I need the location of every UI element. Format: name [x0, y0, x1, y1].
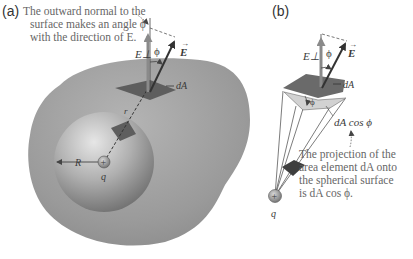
label-phi-b: ϕ — [326, 47, 332, 59]
panel-a-caption-line-2: surface makes an angle ϕ — [30, 18, 146, 31]
panel-b-caption-line-2: area element dA onto — [299, 161, 397, 173]
vector-arrow-e: → — [181, 39, 189, 48]
gauss-law-diagram: + q R r dA E⊥ ϕ E → (a) The outward norm… — [0, 0, 413, 259]
label-e-perp-b: E⊥ — [302, 50, 320, 62]
label-dA-b: dA — [343, 79, 355, 90]
projection-dash-b — [322, 34, 347, 41]
panel-a: + q R r dA E⊥ ϕ E → (a) The outward norm… — [2, 3, 250, 246]
panel-b-caption-line-1: The projection of the — [299, 148, 396, 161]
panel-b: (b) E⊥ ϕ E → dA ϕ — [269, 3, 398, 219]
label-e-perp: E⊥ — [134, 48, 152, 60]
panel-b-caption-line-4: is dA cos ϕ. — [299, 187, 353, 200]
vector-arrow-e-b: → — [349, 40, 357, 49]
label-phi: ϕ — [154, 45, 160, 57]
label-R: R — [74, 157, 81, 168]
label-q-b: q — [271, 208, 276, 219]
label-dA: dA — [176, 80, 188, 91]
projection-dash — [150, 28, 175, 37]
panel-b-caption-line-3: the spherical surface — [299, 174, 394, 187]
label-r: r — [124, 106, 128, 116]
label-dA-cos-phi: dA cos ϕ — [334, 116, 372, 128]
diagram-canvas: + q R r dA E⊥ ϕ E → (a) The outward norm… — [0, 0, 413, 259]
label-q: q — [101, 171, 106, 182]
panel-a-caption-line-3: with the direction of E. — [30, 31, 136, 43]
charge-sign: + — [101, 157, 107, 168]
panel-b-label: (b) — [272, 3, 289, 19]
charge-sign-b: + — [272, 191, 278, 202]
panel-a-label: (a) — [2, 3, 19, 19]
panel-a-caption-line-1: The outward normal to the — [23, 5, 146, 17]
label-phi-lower: ϕ — [310, 97, 315, 107]
caption-leader-b — [350, 131, 351, 147]
